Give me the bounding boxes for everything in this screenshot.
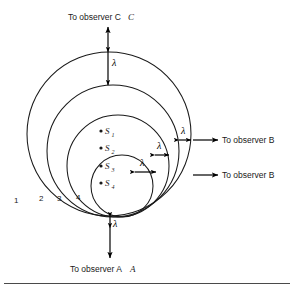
diagram-canvas: 1 2 3 4 S 1 S 2 S 3 S 4 To observer C C bbox=[0, 0, 294, 291]
source-sub-4: 4 bbox=[112, 184, 115, 190]
observer-b-lower-group: To observer B bbox=[193, 170, 275, 180]
source-dot-4 bbox=[99, 181, 102, 184]
ring-label-1: 1 bbox=[14, 196, 19, 205]
source-label-2: S bbox=[105, 143, 110, 153]
observer-a-letter: A bbox=[129, 264, 136, 274]
source-sub-2: 2 bbox=[112, 149, 115, 155]
source-sub-3: 3 bbox=[111, 167, 115, 173]
observer-b-upper-group: λ To observer B bbox=[179, 125, 275, 145]
source-dot-1 bbox=[99, 129, 102, 132]
ring-label-4: 4 bbox=[76, 193, 81, 202]
observer-a-group: λ To observer A A bbox=[70, 217, 136, 274]
ring-label-2: 2 bbox=[39, 194, 44, 203]
observer-b-upper-label: To observer B bbox=[222, 135, 275, 145]
source-points: S 1 S 2 S 3 S 4 bbox=[99, 126, 114, 190]
observer-a-label: To observer A bbox=[70, 264, 122, 274]
lambda-right-inner-symbol: λ bbox=[139, 157, 145, 168]
observer-b-lower-label: To observer B bbox=[222, 170, 275, 180]
source-dot-2 bbox=[99, 146, 102, 149]
lambda-top-symbol: λ bbox=[111, 57, 117, 68]
lambda-bottom-symbol: λ bbox=[112, 218, 118, 229]
source-dot-3 bbox=[99, 164, 102, 167]
lambda-right-middle-symbol: λ bbox=[156, 140, 162, 151]
wavefront-circle-3 bbox=[67, 115, 169, 217]
ring-number-labels: 1 2 3 4 bbox=[14, 193, 81, 205]
source-label-3: S bbox=[105, 161, 110, 171]
observer-c-group: To observer C C λ bbox=[68, 12, 135, 85]
ring-label-3: 3 bbox=[57, 194, 62, 203]
source-label-4: S bbox=[105, 178, 110, 188]
observer-c-label: To observer C bbox=[68, 12, 121, 22]
wavefront-diagram: 1 2 3 4 S 1 S 2 S 3 S 4 To observer C C bbox=[0, 0, 294, 291]
source-label-1: S bbox=[105, 126, 110, 136]
lambda-right-outer-symbol: λ bbox=[180, 125, 186, 136]
observer-c-letter: C bbox=[128, 12, 135, 22]
source-sub-1: 1 bbox=[112, 132, 115, 138]
